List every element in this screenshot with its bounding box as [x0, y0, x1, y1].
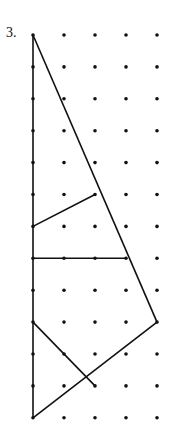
grid-dot — [155, 416, 159, 420]
grid-dot — [93, 288, 97, 292]
segment — [33, 322, 157, 418]
grid-dot — [124, 384, 128, 388]
grid-dot — [124, 320, 128, 324]
grid-dot — [93, 416, 97, 420]
grid-dot — [62, 193, 66, 197]
grid-dot — [155, 65, 159, 69]
grid-dot — [124, 129, 128, 133]
grid-dot — [124, 416, 128, 420]
grid-dot — [155, 129, 159, 133]
grid-dot — [124, 352, 128, 356]
grid-dot — [124, 65, 128, 69]
grid-dot — [93, 65, 97, 69]
segment — [33, 195, 95, 227]
grid-dot — [155, 193, 159, 197]
grid-dot — [93, 97, 97, 101]
grid-dot — [93, 320, 97, 324]
grid-dot — [124, 97, 128, 101]
grid-dot — [124, 225, 128, 229]
grid-dot — [93, 352, 97, 356]
grid-dot — [62, 129, 66, 133]
grid-dot — [62, 416, 66, 420]
grid-dot — [124, 161, 128, 165]
grid-dot — [62, 33, 66, 37]
grid-dot — [124, 288, 128, 292]
grid-dot — [93, 129, 97, 133]
grid-dot — [93, 161, 97, 165]
grid-dot — [124, 33, 128, 37]
grid-dot — [93, 33, 97, 37]
grid-dot — [155, 225, 159, 229]
grid-dot — [155, 97, 159, 101]
grid-dot — [93, 225, 97, 229]
grid-dot — [62, 320, 66, 324]
dot-grid-figure — [0, 0, 175, 442]
grid-dot — [155, 352, 159, 356]
grid-dot — [155, 288, 159, 292]
grid-dot — [155, 257, 159, 261]
grid-dot — [155, 161, 159, 165]
grid-dot — [62, 161, 66, 165]
segment — [33, 35, 157, 322]
grid-dot — [62, 97, 66, 101]
grid-dot — [62, 225, 66, 229]
grid-dot — [155, 384, 159, 388]
grid-dot — [62, 65, 66, 69]
segment — [33, 322, 95, 386]
grid-dot — [124, 193, 128, 197]
grid-dot — [62, 384, 66, 388]
grid-dot — [155, 33, 159, 37]
grid-dot — [62, 288, 66, 292]
